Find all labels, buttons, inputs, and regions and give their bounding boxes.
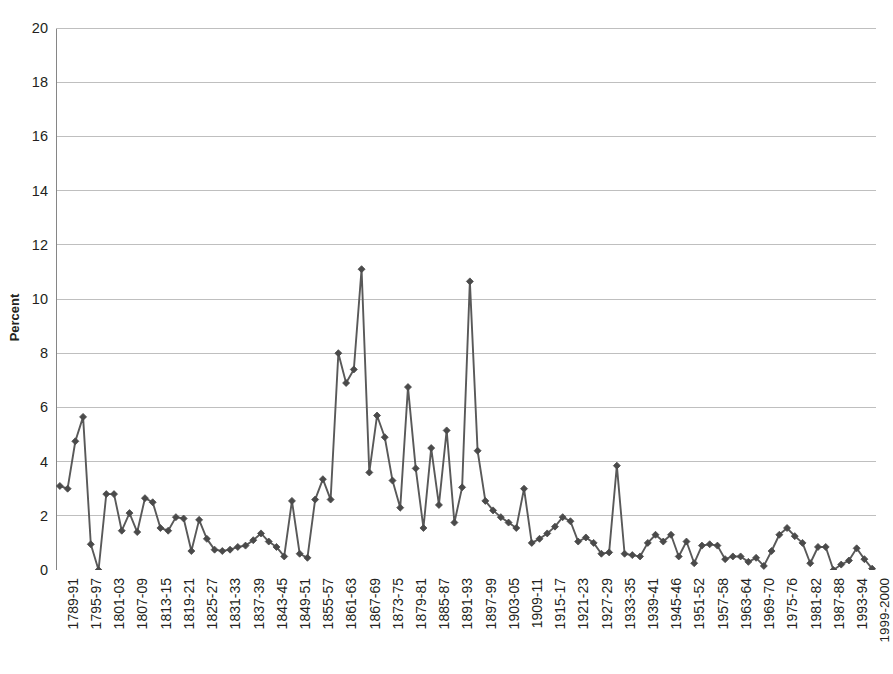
y-tick-label: 2 xyxy=(4,508,48,524)
x-tick-label: 1891-93 xyxy=(459,578,475,629)
data-point xyxy=(118,527,125,534)
x-tick-label: 1993-94 xyxy=(854,578,870,629)
data-point xyxy=(613,462,620,469)
x-tick-label: 1921-23 xyxy=(575,578,591,629)
data-point xyxy=(404,384,411,391)
x-tick-label: 1975-76 xyxy=(784,578,800,629)
x-axis-tick-labels: 1789-911795-971801-031807-091813-151819-… xyxy=(56,578,876,674)
x-tick-label: 1867-69 xyxy=(367,578,383,629)
data-point xyxy=(521,485,528,492)
y-tick-label: 8 xyxy=(4,345,48,361)
x-tick-label: 1807-09 xyxy=(134,578,150,629)
y-tick-label: 14 xyxy=(4,183,48,199)
x-tick-label: 1789-91 xyxy=(65,578,81,629)
data-point xyxy=(335,350,342,357)
data-point xyxy=(675,553,682,560)
data-point xyxy=(397,504,404,511)
plot-area xyxy=(56,28,876,570)
data-point xyxy=(234,543,241,550)
data-point xyxy=(706,541,713,548)
series-line xyxy=(60,269,872,570)
data-point xyxy=(575,538,582,545)
data-point xyxy=(459,484,466,491)
plot-svg xyxy=(56,28,876,570)
data-point xyxy=(435,501,442,508)
data-point xyxy=(428,445,435,452)
data-point xyxy=(389,477,396,484)
data-point xyxy=(157,524,164,531)
data-point xyxy=(72,438,79,445)
data-point xyxy=(64,485,71,492)
data-point xyxy=(567,518,574,525)
data-point xyxy=(683,538,690,545)
data-point xyxy=(768,548,775,555)
data-point xyxy=(443,427,450,434)
x-tick-label: 1831-33 xyxy=(227,578,243,629)
data-point xyxy=(312,496,319,503)
data-point xyxy=(420,524,427,531)
x-tick-label: 1855-57 xyxy=(320,578,336,629)
data-point xyxy=(196,516,203,523)
data-point xyxy=(374,412,381,419)
x-tick-label: 1999-2000 xyxy=(877,578,892,643)
data-point xyxy=(606,549,613,556)
data-point xyxy=(103,491,110,498)
data-point xyxy=(134,529,141,536)
data-point xyxy=(621,550,628,557)
x-tick-label: 1885-87 xyxy=(436,578,452,629)
x-tick-label: 1963-64 xyxy=(738,578,754,629)
data-point xyxy=(288,497,295,504)
x-tick-label: 1951-52 xyxy=(691,578,707,629)
data-point xyxy=(629,552,636,559)
data-point xyxy=(327,496,334,503)
data-point xyxy=(227,546,234,553)
data-point xyxy=(451,519,458,526)
data-point xyxy=(807,560,814,567)
data-point xyxy=(296,550,303,557)
data-point xyxy=(141,495,148,502)
data-point xyxy=(814,543,821,550)
y-tick-label: 0 xyxy=(4,562,48,578)
data-point xyxy=(56,482,63,489)
data-point xyxy=(304,554,311,561)
x-tick-label: 1957-58 xyxy=(715,578,731,629)
x-tick-label: 1801-03 xyxy=(111,578,127,629)
data-point xyxy=(149,499,156,506)
data-point xyxy=(691,560,698,567)
data-point xyxy=(822,543,829,550)
line-chart: Percent 02468101214161820 1789-911795-97… xyxy=(0,0,893,674)
x-tick-label: 1903-05 xyxy=(506,578,522,629)
x-tick-label: 1879-81 xyxy=(413,578,429,629)
data-point xyxy=(366,469,373,476)
data-point xyxy=(358,266,365,273)
y-tick-label: 10 xyxy=(4,291,48,307)
x-tick-label: 1945-46 xyxy=(668,578,684,629)
data-point xyxy=(381,434,388,441)
series-markers xyxy=(56,266,875,570)
x-tick-label: 1837-39 xyxy=(251,578,267,629)
data-point xyxy=(528,539,535,546)
x-tick-label: 1987-88 xyxy=(831,578,847,629)
x-tick-label: 1843-45 xyxy=(274,578,290,629)
y-tick-label: 6 xyxy=(4,399,48,415)
x-tick-label: 1981-82 xyxy=(808,578,824,629)
data-point xyxy=(188,548,195,555)
y-axis-tick-labels: 02468101214161820 xyxy=(0,0,48,674)
x-tick-label: 1897-99 xyxy=(483,578,499,629)
x-tick-label: 1939-41 xyxy=(645,578,661,629)
x-tick-label: 1909-11 xyxy=(529,578,545,628)
data-point xyxy=(466,278,473,285)
data-point xyxy=(412,465,419,472)
x-tick-label: 1915-17 xyxy=(552,578,568,629)
y-tick-label: 18 xyxy=(4,74,48,90)
data-point xyxy=(474,447,481,454)
data-point xyxy=(698,542,705,549)
y-tick-label: 16 xyxy=(4,128,48,144)
x-tick-label: 1933-35 xyxy=(622,578,638,629)
y-tick-label: 4 xyxy=(4,454,48,470)
data-point xyxy=(319,476,326,483)
x-tick-label: 1969-70 xyxy=(761,578,777,629)
data-point xyxy=(80,413,87,420)
x-tick-label: 1825-27 xyxy=(204,578,220,629)
x-tick-label: 1813-15 xyxy=(158,578,174,629)
